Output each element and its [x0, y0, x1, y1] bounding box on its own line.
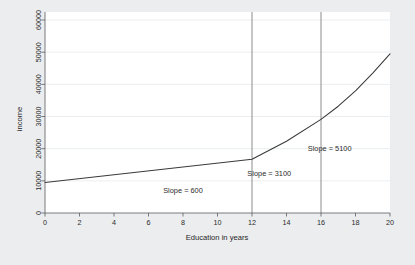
plot-area-background: [45, 12, 390, 213]
y-tick-label-20000: 20000: [34, 139, 43, 159]
slope-3100-label: Slope = 3100: [247, 169, 291, 178]
y-tick-label-60000: 60000: [34, 10, 43, 30]
x-tick-label-6: 6: [147, 218, 151, 227]
x-tick-label-18: 18: [352, 218, 360, 227]
x-tick-label-0: 0: [43, 218, 47, 227]
y-tick-label-0: 0: [34, 211, 43, 215]
y-tick-label-40000: 40000: [34, 74, 43, 94]
x-tick-label-4: 4: [112, 218, 116, 227]
plot-container: 0100002000030000400005000060000 02468101…: [0, 0, 415, 265]
y-tick-label-50000: 50000: [34, 42, 43, 62]
slope-5100-label: Slope = 5100: [308, 144, 352, 153]
x-tick-label-12: 12: [248, 218, 256, 227]
income-education-chart: 0100002000030000400005000060000 02468101…: [0, 0, 415, 265]
x-tick-label-16: 16: [317, 218, 325, 227]
y-tick-label-30000: 30000: [34, 107, 43, 127]
x-tick-label-2: 2: [78, 218, 82, 227]
x-tick-label-20: 20: [386, 218, 394, 227]
x-tick-label-8: 8: [181, 218, 185, 227]
slope-600-label: Slope = 600: [163, 186, 203, 195]
chart-canvas: 0100002000030000400005000060000 02468101…: [0, 0, 415, 265]
x-tick-label-10: 10: [214, 218, 222, 227]
y-axis-title: income: [15, 107, 24, 131]
x-axis-title: Education in years: [186, 233, 249, 242]
y-tick-label-10000: 10000: [34, 171, 43, 191]
x-tick-label-14: 14: [283, 218, 291, 227]
